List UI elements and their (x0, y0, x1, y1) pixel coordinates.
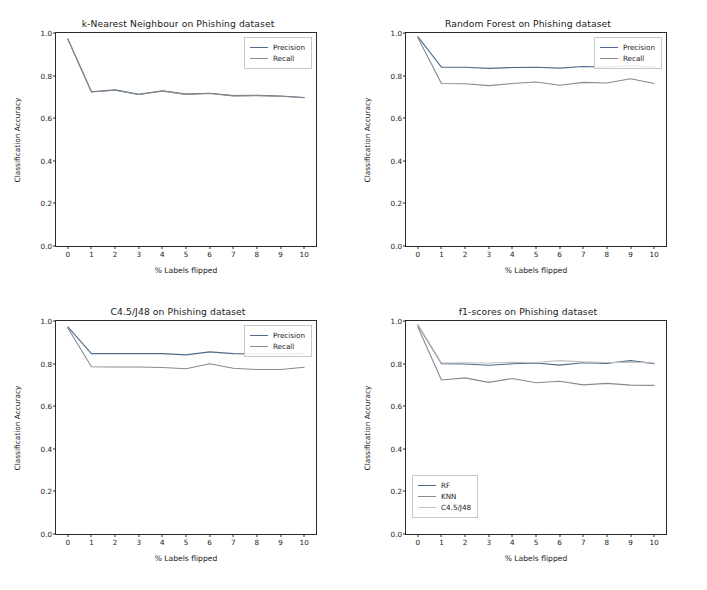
y-axis-label: Classification Accuracy (360, 32, 374, 247)
x-tick-label: 7 (581, 250, 586, 259)
x-tick-mark (559, 534, 560, 537)
x-tick-label: 1 (89, 538, 94, 547)
x-tick-mark (606, 246, 607, 249)
x-tick-mark (536, 534, 537, 537)
legend-item[interactable]: Recall (250, 53, 305, 64)
x-tick-mark (488, 534, 489, 537)
x-tick-mark (115, 534, 116, 537)
legend-item[interactable]: Recall (250, 341, 305, 352)
x-tick-mark (304, 246, 305, 249)
x-tick-mark (138, 246, 139, 249)
legend-label: Recall (273, 53, 294, 64)
legend-label: Recall (623, 53, 644, 64)
legend[interactable]: PrecisionRecall (244, 37, 312, 69)
x-tick-mark (654, 246, 655, 249)
x-tick-mark (417, 534, 418, 537)
legend-item[interactable]: Precision (250, 42, 305, 53)
x-tick-label: 0 (66, 538, 71, 547)
legend[interactable]: PrecisionRecall (244, 325, 312, 357)
x-tick-mark (67, 246, 68, 249)
x-tick-label: 10 (650, 538, 659, 547)
x-tick-label: 10 (300, 538, 309, 547)
x-tick-label: 9 (278, 250, 283, 259)
line-series-c4-5-j48 (418, 324, 654, 363)
x-tick-mark (536, 246, 537, 249)
x-tick-label: 4 (160, 250, 165, 259)
subplot-c45-j48: C4.5/J48 on Phishing dataset Classificat… (8, 296, 348, 584)
x-tick-mark (280, 534, 281, 537)
legend[interactable]: PrecisionRecall (594, 37, 662, 69)
x-tick-mark (441, 246, 442, 249)
x-tick-mark (186, 246, 187, 249)
x-tick-label: 5 (534, 538, 539, 547)
y-tick-label: 0.8 (41, 359, 52, 368)
x-tick-label: 5 (534, 250, 539, 259)
x-tick-mark (465, 534, 466, 537)
x-tick-label: 8 (605, 538, 610, 547)
y-tick-label: 0.0 (391, 530, 402, 539)
x-tick-label: 5 (184, 250, 189, 259)
legend-label: Precision (273, 42, 305, 53)
x-tick-mark (233, 534, 234, 537)
x-tick-label: 7 (581, 538, 586, 547)
subplot-title: f1-scores on Phishing dataset (358, 306, 698, 317)
x-tick-mark (209, 246, 210, 249)
subplot-title: Random Forest on Phishing dataset (358, 18, 698, 29)
x-tick-mark (162, 534, 163, 537)
legend-item[interactable]: Recall (600, 53, 655, 64)
figure-canvas: k-Nearest Neighbour on Phishing dataset … (0, 0, 707, 590)
subplot-random-forest: Random Forest on Phishing dataset Classi… (358, 8, 698, 296)
y-tick-label: 0.4 (41, 444, 52, 453)
y-tick-label: 0.6 (391, 402, 402, 411)
legend-item[interactable]: Precision (250, 330, 305, 341)
y-tick-label: 0.2 (391, 199, 402, 208)
plot-area: 0.00.20.40.60.81.0012345678910PrecisionR… (55, 320, 317, 535)
x-tick-mark (512, 534, 513, 537)
legend-line-swatch (418, 485, 436, 486)
x-tick-label: 2 (113, 250, 118, 259)
legend-line-swatch (250, 47, 268, 48)
legend-line-swatch (250, 335, 268, 336)
line-series-rf (418, 325, 654, 365)
legend-item[interactable]: KNN (418, 491, 471, 502)
legend-label: Precision (273, 330, 305, 341)
x-axis-label: % Labels flipped (405, 554, 667, 563)
legend-item[interactable]: RF (418, 480, 471, 491)
subplot-title: k-Nearest Neighbour on Phishing dataset (8, 18, 348, 29)
y-tick-label: 0.0 (391, 242, 402, 251)
legend-line-swatch (600, 47, 618, 48)
y-tick-label: 0.4 (391, 156, 402, 165)
y-axis-label: Classification Accuracy (10, 320, 24, 535)
legend-line-swatch (250, 58, 268, 59)
line-series-knn (418, 327, 654, 385)
x-tick-label: 2 (463, 250, 468, 259)
x-tick-label: 7 (231, 250, 236, 259)
x-tick-mark (256, 246, 257, 249)
legend-label: Recall (273, 341, 294, 352)
x-tick-label: 4 (160, 538, 165, 547)
x-tick-mark (630, 246, 631, 249)
y-tick-label: 1.0 (41, 317, 52, 326)
legend[interactable]: RFKNNC4.5/J48 (412, 475, 478, 518)
x-tick-mark (583, 534, 584, 537)
y-tick-label: 0.8 (391, 359, 402, 368)
x-tick-label: 8 (605, 250, 610, 259)
y-tick-label: 0.4 (391, 444, 402, 453)
x-tick-label: 2 (463, 538, 468, 547)
x-tick-label: 4 (510, 250, 515, 259)
y-axis-label-text: Classification Accuracy (363, 385, 372, 470)
x-tick-mark (91, 534, 92, 537)
legend-label: KNN (441, 491, 456, 502)
x-tick-mark (654, 534, 655, 537)
legend-item[interactable]: Precision (600, 42, 655, 53)
plot-area: 0.00.20.40.60.81.0012345678910PrecisionR… (405, 32, 667, 247)
x-axis-label: % Labels flipped (405, 266, 667, 275)
subplot-f1-scores: f1-scores on Phishing dataset Classifica… (358, 296, 698, 584)
x-tick-label: 3 (486, 538, 491, 547)
x-tick-label: 3 (136, 250, 141, 259)
x-tick-label: 0 (416, 538, 421, 547)
x-tick-mark (209, 534, 210, 537)
x-tick-label: 0 (66, 250, 71, 259)
legend-item[interactable]: C4.5/J48 (418, 502, 471, 513)
legend-line-swatch (418, 496, 436, 497)
